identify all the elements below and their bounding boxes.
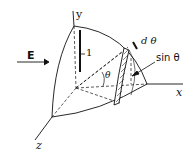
y-axis — [73, 11, 74, 26]
field-e-label: E — [27, 50, 35, 61]
radius-label: 1 — [86, 48, 92, 58]
z-axis — [35, 117, 52, 140]
y-axis-label: y — [76, 9, 82, 20]
theta-label: θ — [105, 71, 110, 80]
sin-theta-label: sin θ — [156, 53, 180, 63]
d-theta-label: d θ — [141, 36, 157, 46]
z-axis-label: z — [36, 140, 42, 151]
x-axis-label: x — [176, 87, 182, 98]
sphere-octant-diagram — [0, 0, 194, 154]
